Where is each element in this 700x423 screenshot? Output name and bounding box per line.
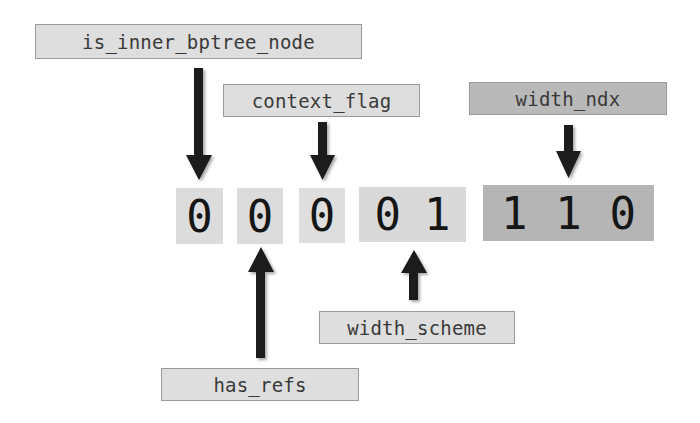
arrow-down-icon bbox=[556, 125, 581, 178]
arrows-layer bbox=[0, 0, 700, 423]
arrow-down-icon bbox=[310, 122, 335, 180]
arrow-up-icon bbox=[248, 247, 274, 358]
arrow-down-icon bbox=[186, 68, 212, 180]
arrow-up-icon bbox=[401, 250, 427, 300]
